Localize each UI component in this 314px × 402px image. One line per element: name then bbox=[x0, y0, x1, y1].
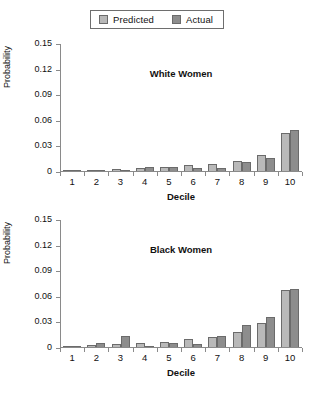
x-axis-label-bottom: Decile bbox=[60, 367, 302, 378]
x-axis-label-top: Decile bbox=[60, 191, 302, 202]
y-tick-top-3: 0.09 bbox=[56, 95, 60, 96]
x-tick-label-bottom-8: 8 bbox=[229, 352, 253, 363]
y-tick-top-2: 0.06 bbox=[56, 121, 60, 122]
bar-groups-top bbox=[60, 44, 302, 171]
bar-bottom-9-predicted bbox=[257, 323, 266, 347]
bar-group-top-9 bbox=[254, 44, 278, 171]
legend-label-actual: Actual bbox=[186, 14, 213, 25]
bar-top-5-actual bbox=[169, 167, 178, 171]
y-tick-label-bottom-0: 0 bbox=[47, 342, 52, 353]
bar-group-bottom-9 bbox=[254, 220, 278, 347]
legend-swatch-predicted-icon bbox=[99, 15, 108, 24]
bar-bottom-4-actual bbox=[145, 346, 154, 347]
bar-top-1-actual bbox=[72, 170, 81, 171]
bar-group-top-4 bbox=[133, 44, 157, 171]
x-tick-label-top-2: 2 bbox=[84, 176, 108, 187]
y-tick-label-top-1: 0.03 bbox=[34, 140, 52, 151]
bar-bottom-5-predicted bbox=[160, 342, 169, 347]
bar-top-2-actual bbox=[96, 170, 105, 171]
bar-top-7-predicted bbox=[208, 164, 217, 171]
bar-bottom-7-actual bbox=[217, 336, 226, 347]
bar-group-top-8 bbox=[229, 44, 253, 171]
bar-bottom-6-predicted bbox=[184, 339, 193, 347]
x-tick-label-bottom-4: 4 bbox=[133, 352, 157, 363]
bar-group-bottom-3 bbox=[108, 220, 132, 347]
bar-bottom-4-predicted bbox=[136, 343, 145, 347]
bar-top-3-predicted bbox=[112, 169, 121, 171]
x-tick-label-top-4: 4 bbox=[133, 176, 157, 187]
y-tick-bottom-4: 0.12 bbox=[56, 246, 60, 247]
bar-group-bottom-8 bbox=[229, 220, 253, 347]
bar-bottom-2-actual bbox=[96, 343, 105, 347]
plot-area-bottom: 00.030.060.090.120.15 bbox=[60, 220, 302, 348]
y-tick-top-5: 0.15 bbox=[56, 44, 60, 45]
bar-top-10-predicted bbox=[281, 133, 290, 171]
y-tick-label-top-0: 0 bbox=[47, 166, 52, 177]
bar-group-bottom-1 bbox=[60, 220, 84, 347]
bar-group-top-5 bbox=[157, 44, 181, 171]
bar-top-3-actual bbox=[121, 170, 130, 171]
y-tick-bottom-2: 0.06 bbox=[56, 297, 60, 298]
bar-bottom-7-predicted bbox=[208, 337, 217, 347]
x-tick-label-top-1: 1 bbox=[60, 176, 84, 187]
bar-top-4-actual bbox=[145, 167, 154, 171]
y-tick-bottom-3: 0.09 bbox=[56, 271, 60, 272]
chart-panel-black-women: Probability Black Women 00.030.060.090.1… bbox=[0, 212, 314, 402]
x-tick-label-top-9: 9 bbox=[254, 176, 278, 187]
y-tick-label-bottom-5: 0.15 bbox=[34, 214, 52, 225]
bar-top-6-predicted bbox=[184, 165, 193, 171]
y-tick-label-top-2: 0.06 bbox=[34, 115, 52, 126]
bar-group-bottom-5 bbox=[157, 220, 181, 347]
bar-group-bottom-6 bbox=[181, 220, 205, 347]
x-tick-label-top-10: 10 bbox=[278, 176, 302, 187]
bar-group-top-1 bbox=[60, 44, 84, 171]
legend-swatch-actual-icon bbox=[172, 15, 181, 24]
bar-groups-bottom bbox=[60, 220, 302, 347]
bar-top-9-actual bbox=[266, 158, 275, 171]
bar-bottom-1-predicted bbox=[63, 346, 72, 347]
x-tick-label-bottom-3: 3 bbox=[108, 352, 132, 363]
bar-top-8-predicted bbox=[233, 161, 242, 171]
bar-bottom-3-actual bbox=[121, 336, 130, 347]
y-tick-label-bottom-3: 0.09 bbox=[34, 265, 52, 276]
x-tick-labels-bottom: 12345678910 bbox=[60, 352, 302, 363]
y-tick-top-4: 0.12 bbox=[56, 70, 60, 71]
x-tick-label-top-6: 6 bbox=[181, 176, 205, 187]
bar-group-top-6 bbox=[181, 44, 205, 171]
x-tick-label-bottom-10: 10 bbox=[278, 352, 302, 363]
bar-bottom-9-actual bbox=[266, 317, 275, 347]
x-tick-top-9 bbox=[302, 172, 303, 176]
bar-top-5-predicted bbox=[160, 167, 169, 171]
legend-entry-actual: Actual bbox=[172, 14, 213, 25]
x-tick-label-top-3: 3 bbox=[108, 176, 132, 187]
x-tick-label-bottom-9: 9 bbox=[254, 352, 278, 363]
bar-top-9-predicted bbox=[257, 155, 266, 171]
x-tick-label-top-7: 7 bbox=[205, 176, 229, 187]
bar-group-bottom-10 bbox=[278, 220, 302, 347]
bar-bottom-8-actual bbox=[242, 325, 251, 347]
y-tick-label-top-4: 0.12 bbox=[34, 64, 52, 75]
y-tick-bottom-1: 0.03 bbox=[56, 322, 60, 323]
chart-legend: Predicted Actual bbox=[0, 10, 314, 29]
y-tick-label-bottom-4: 0.12 bbox=[34, 240, 52, 251]
bar-bottom-10-predicted bbox=[281, 290, 290, 347]
bar-group-top-10 bbox=[278, 44, 302, 171]
x-tick-label-bottom-6: 6 bbox=[181, 352, 205, 363]
bar-top-2-predicted bbox=[87, 170, 96, 171]
y-tick-label-bottom-2: 0.06 bbox=[34, 291, 52, 302]
bar-group-top-7 bbox=[205, 44, 229, 171]
plot-area-top: 00.030.060.090.120.15 bbox=[60, 44, 302, 172]
bar-top-1-predicted bbox=[63, 170, 72, 171]
legend-box: Predicted Actual bbox=[90, 10, 224, 29]
bar-bottom-1-actual bbox=[72, 346, 81, 347]
y-tick-bottom-5: 0.15 bbox=[56, 220, 60, 221]
chart-panel-white-women: Probability White Women 00.030.060.090.1… bbox=[0, 36, 314, 226]
bar-group-bottom-2 bbox=[84, 220, 108, 347]
x-tick-label-bottom-7: 7 bbox=[205, 352, 229, 363]
y-tick-top-1: 0.03 bbox=[56, 146, 60, 147]
bar-group-top-2 bbox=[84, 44, 108, 171]
bar-bottom-3-predicted bbox=[112, 344, 121, 347]
x-tick-bottom-9 bbox=[302, 348, 303, 352]
bar-group-top-3 bbox=[108, 44, 132, 171]
x-tick-label-bottom-1: 1 bbox=[60, 352, 84, 363]
